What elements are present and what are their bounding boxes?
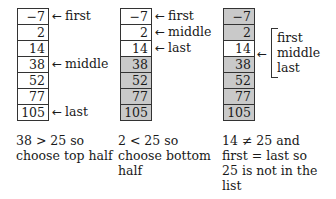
array-cell: 2	[18, 25, 48, 41]
left-arrow-icon: ←	[155, 41, 165, 55]
caption-line: list	[222, 178, 332, 193]
array-cell: 14	[224, 41, 254, 57]
array-panel-3: −7 2 14 38 52 77 105	[223, 8, 255, 121]
pointer-label: first	[168, 8, 194, 23]
left-arrow-icon: ←	[155, 25, 165, 39]
array-cell: −7	[18, 9, 48, 25]
array-cell-shaded: 52	[121, 73, 151, 89]
pointer-label-middle: middle	[277, 45, 320, 60]
array-cell-shaded: 105	[224, 105, 254, 121]
array-cell-shaded: 52	[224, 73, 254, 89]
array-cell-shaded: 105	[121, 105, 151, 121]
array-cell-shaded: −7	[224, 9, 254, 25]
caption-panel-2: 2 < 25 so choose bottom half	[118, 133, 218, 178]
pointer-last: ←last	[52, 105, 88, 119]
array-cell: −7	[121, 9, 151, 25]
array-cell: 38	[18, 57, 48, 73]
array-cell-shaded: 77	[121, 89, 151, 105]
caption-line: first = last so	[222, 148, 332, 163]
pointer-label: last	[168, 40, 191, 55]
array-cell: 14	[18, 41, 48, 57]
caption-panel-3: 14 ≠ 25 and first = last so 25 is not in…	[222, 133, 332, 193]
array-panel-1: −7 2 14 38 52 77 105	[17, 8, 49, 121]
caption-line: 38 > 25 so	[16, 133, 116, 148]
left-arrow-icon: ←	[155, 9, 165, 23]
left-arrow-icon: ←	[52, 9, 62, 23]
caption-line: 2 < 25 so	[118, 133, 218, 148]
pointer-label: last	[65, 104, 88, 119]
bracket-labels: first middle last	[277, 30, 320, 75]
array-cell-shaded: 38	[224, 57, 254, 73]
array-panel-2: −7 2 14 38 52 77 105	[120, 8, 152, 121]
array-cell-shaded: 38	[121, 57, 151, 73]
array-cell-shaded: 2	[224, 25, 254, 41]
caption-line: 14 ≠ 25 and	[222, 133, 332, 148]
pointer-first: ←first	[52, 9, 91, 23]
pointer-label: middle	[168, 24, 211, 39]
pointer-label-last: last	[277, 60, 320, 75]
pointer-middle: ←middle	[155, 25, 211, 39]
caption-line: choose bottom	[118, 148, 218, 163]
caption-line: choose top half	[16, 148, 116, 163]
pointer-last: ←last	[155, 41, 191, 55]
left-arrow-icon: ←	[52, 57, 62, 71]
array-cell: 2	[121, 25, 151, 41]
array-cell: 105	[18, 105, 48, 121]
array-cell: 52	[18, 73, 48, 89]
left-arrow-icon: ←	[52, 105, 62, 119]
caption-line: 25 is not in the	[222, 163, 332, 178]
left-arrow-icon: ←	[257, 47, 267, 61]
caption-panel-1: 38 > 25 so choose top half	[16, 133, 116, 163]
array-cell: 77	[18, 89, 48, 105]
pointer-middle: ←middle	[52, 57, 108, 71]
caption-line: half	[118, 163, 218, 178]
array-cell: 14	[121, 41, 151, 57]
pointer-label: middle	[65, 56, 108, 71]
pointer-first: ←first	[155, 9, 194, 23]
pointer-label-first: first	[277, 30, 320, 45]
pointer-label: first	[65, 8, 91, 23]
array-cell-shaded: 77	[224, 89, 254, 105]
